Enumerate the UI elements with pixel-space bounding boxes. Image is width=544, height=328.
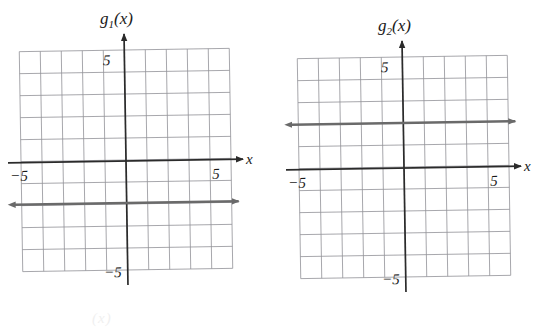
x-tick-label-right-g1: 5: [212, 166, 220, 182]
two-graph-figure: 5 −5 −5 5 x g1(x): [0, 0, 544, 328]
function-line-g1: [15, 201, 239, 205]
panel-title-suffix-g2: (x): [392, 16, 411, 35]
graph-panel-g2: 5 −5 −5 5 x g2(x): [272, 0, 544, 328]
y-tick-label-top-g2: 5: [381, 59, 389, 75]
panel-title-g2: g2(x): [378, 16, 411, 37]
y-tick-label-bottom-g1: −5: [104, 264, 122, 280]
graph-panel-g1: 5 −5 −5 5 x g1(x): [0, 0, 272, 328]
y-tick-label-top-g1: 5: [103, 52, 111, 68]
x-tick-label-left-g2: −5: [288, 175, 306, 191]
x-tick-label-left-g1: −5: [10, 168, 28, 184]
panel-title-g1: g1(x): [100, 9, 133, 30]
x-tick-label-right-g2: 5: [490, 173, 498, 189]
panel-title-base-g2: g: [378, 16, 387, 35]
x-axis-name-g2: x: [523, 158, 531, 174]
y-tick-label-bottom-g2: −5: [382, 271, 400, 287]
bottom-cut-text: (x): [92, 310, 112, 327]
panel-title-suffix-g1: (x): [114, 9, 133, 28]
panel-title-base-g1: g: [100, 9, 109, 28]
function-line-g2: [291, 121, 515, 125]
x-axis-name-g1: x: [245, 151, 253, 167]
